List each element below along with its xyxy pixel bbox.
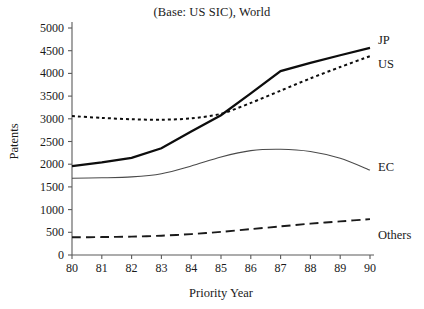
y-tick-label: 2000: [40, 157, 64, 171]
y-tick-label: 5000: [40, 21, 64, 35]
x-tick-label: 90: [364, 261, 376, 275]
x-tick-label: 85: [215, 261, 227, 275]
series-label-jp: JP: [378, 33, 390, 47]
x-tick-label: 84: [185, 261, 197, 275]
x-tick-label: 86: [245, 261, 257, 275]
y-tick-label: 2500: [40, 135, 64, 149]
series-labels: JPUSECOthers: [378, 33, 411, 242]
x-tick-label: 83: [155, 261, 167, 275]
y-axis-title: Patents: [7, 123, 21, 159]
plot-area: 0500100015002000250030003500400045005000…: [0, 0, 424, 309]
series-line-us: [72, 56, 370, 120]
y-tick-label: 500: [46, 225, 64, 239]
y-tick-label: 4500: [40, 44, 64, 58]
series-label-ec: EC: [378, 160, 394, 174]
y-tick-label: 0: [58, 248, 64, 262]
series-label-us: US: [378, 57, 394, 71]
x-tick-label: 88: [304, 261, 316, 275]
x-tick-label: 87: [275, 261, 287, 275]
x-tick-label: 80: [66, 261, 78, 275]
series-lines: [72, 48, 370, 237]
y-tick-label: 3500: [40, 89, 64, 103]
x-axis: 8081828384858687888990: [66, 255, 376, 275]
series-line-jp: [72, 48, 370, 166]
y-tick-label: 1000: [40, 203, 64, 217]
patents-line-chart: (Base: US SIC), World 050010001500200025…: [0, 0, 424, 309]
y-axis: 0500100015002000250030003500400045005000: [40, 21, 72, 262]
y-tick-label: 4000: [40, 66, 64, 80]
series-label-others: Others: [378, 228, 411, 242]
x-tick-label: 81: [96, 261, 108, 275]
y-tick-label: 3000: [40, 112, 64, 126]
series-line-ec: [72, 149, 370, 178]
x-tick-label: 82: [126, 261, 138, 275]
y-tick-label: 1500: [40, 180, 64, 194]
x-axis-title: Priority Year: [189, 286, 254, 300]
x-tick-label: 89: [334, 261, 346, 275]
series-line-others: [72, 219, 370, 237]
